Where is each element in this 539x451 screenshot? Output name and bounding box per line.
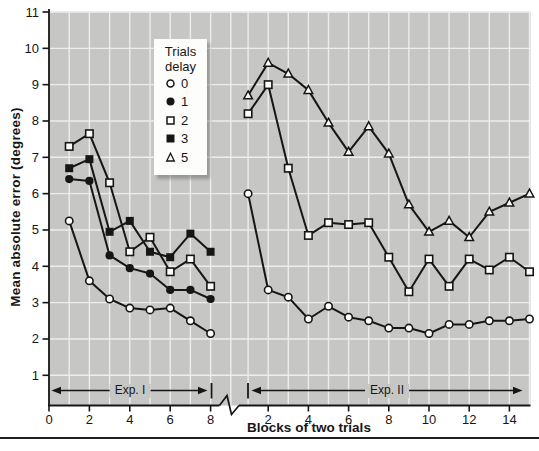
open-square-marker-icon (486, 266, 493, 273)
open-square-marker-icon (86, 130, 93, 137)
open-circle-marker-icon (66, 217, 73, 224)
filled-circle-marker-icon (207, 295, 215, 303)
legend-title: Trials delay (154, 44, 207, 74)
filled-square-marker-icon (163, 132, 178, 145)
filled-circle-marker-icon (166, 286, 174, 294)
open-circle-marker-icon (265, 286, 272, 293)
filled-circle-marker-icon (126, 264, 134, 272)
open-square-marker-icon (365, 219, 372, 226)
filled-square-marker-icon (106, 228, 114, 236)
open-circle-marker-icon (187, 317, 194, 324)
y-tick-label: 1 (32, 368, 39, 383)
x-tick-label: 10 (422, 412, 436, 427)
legend-item: 3 (154, 130, 207, 149)
x-tick-label: 6 (167, 412, 174, 427)
y-tick-label: 2 (32, 331, 39, 346)
open-square-marker-icon (285, 165, 292, 172)
filled-square-marker-icon (207, 248, 215, 256)
open-circle-marker-icon (365, 317, 372, 324)
open-triangle-marker-icon (163, 151, 178, 164)
open-circle-marker-icon (285, 293, 292, 300)
open-circle-marker-icon (305, 315, 312, 322)
open-square-marker-icon (106, 179, 113, 186)
open-square-marker-icon (445, 283, 452, 290)
open-circle-marker-icon (167, 304, 174, 311)
open-square-marker-icon (506, 254, 513, 261)
legend-title-line1: Trials (154, 44, 207, 59)
open-circle-marker-icon (445, 321, 452, 328)
filled-circle-marker-icon (85, 177, 93, 185)
open-circle-marker-icon (325, 303, 332, 310)
y-tick-label: 4 (32, 259, 39, 274)
filled-square-marker-icon (85, 155, 93, 163)
x-tick-label: 12 (462, 412, 476, 427)
filled-square-marker-icon (65, 164, 73, 172)
x-axis-title: Blocks of two trials (247, 420, 371, 435)
x-tick-label: 2 (86, 412, 93, 427)
open-square-marker-icon (385, 254, 392, 261)
open-square-marker-icon (244, 110, 251, 117)
filled-circle-marker-icon (106, 251, 114, 259)
y-tick-label: 3 (32, 295, 39, 310)
legend-item-label: 0 (178, 76, 188, 91)
open-square-marker-icon (345, 221, 352, 228)
open-circle-marker-icon (405, 324, 412, 331)
open-square-marker-icon (466, 255, 473, 262)
open-circle-marker-icon (244, 190, 251, 197)
legend-item-label: 3 (178, 131, 188, 146)
open-square-marker-icon (167, 268, 174, 275)
exp1-range-label: Exp. I (110, 384, 151, 398)
legend-item-label: 1 (178, 94, 188, 109)
figure-canvas: 1234567891011024682468101214 Mean absolu… (0, 0, 539, 451)
open-circle-marker-icon (425, 330, 432, 337)
open-circle-marker-icon (345, 313, 352, 320)
legend-item-label: 2 (178, 113, 188, 128)
y-axis-title: Mean absolute error (degrees) (8, 107, 23, 306)
legend-title-line2: delay (154, 59, 207, 74)
x-tick-label: 4 (126, 412, 133, 427)
x-tick-label: 8 (385, 412, 392, 427)
open-circle-marker-icon (385, 324, 392, 331)
open-circle-marker-icon (466, 321, 473, 328)
y-tick-label: 7 (32, 150, 39, 165)
y-tick-label: 9 (32, 77, 39, 92)
filled-circle-marker-icon (65, 175, 73, 183)
y-tick-label: 10 (25, 41, 39, 56)
open-square-marker-icon (163, 114, 178, 127)
open-circle-marker-icon (126, 304, 133, 311)
open-square-marker-icon (146, 234, 153, 241)
legend-item: 0 (154, 74, 207, 93)
open-circle-marker-icon (207, 330, 214, 337)
filled-square-marker-icon (166, 253, 174, 261)
y-tick-label: 6 (32, 186, 39, 201)
legend-item: 2 (154, 111, 207, 130)
y-tick-label: 11 (26, 5, 40, 20)
open-square-marker-icon (187, 255, 194, 262)
open-circle-marker-icon (106, 295, 113, 302)
figure-bottom-rule (0, 437, 539, 439)
filled-square-marker-icon (186, 230, 194, 238)
open-square-marker-icon (126, 248, 133, 255)
filled-square-marker-icon (126, 217, 134, 225)
filled-circle-marker-icon (186, 286, 194, 294)
open-square-marker-icon (265, 81, 272, 88)
open-circle-marker-icon (486, 317, 493, 324)
open-square-marker-icon (405, 288, 412, 295)
legend-item-label: 5 (178, 150, 188, 165)
open-circle-marker-icon (86, 277, 93, 284)
legend-item: 1 (154, 93, 207, 112)
filled-circle-marker-icon (163, 95, 178, 108)
open-square-marker-icon (425, 255, 432, 262)
filled-square-marker-icon (146, 248, 154, 256)
open-circle-marker-icon (526, 315, 533, 322)
legend: Trials delay 0 1 2 3 5 (154, 39, 207, 175)
filled-circle-marker-icon (146, 269, 154, 277)
x-tick-label: 0 (45, 412, 52, 427)
x-tick-label: 14 (502, 412, 516, 427)
chart-plot-area: 1234567891011024682468101214 (0, 0, 539, 451)
legend-item: 5 (154, 148, 207, 167)
open-circle-marker-icon (506, 317, 513, 324)
open-square-marker-icon (305, 232, 312, 239)
open-square-marker-icon (66, 143, 73, 150)
open-circle-marker-icon (163, 77, 178, 90)
